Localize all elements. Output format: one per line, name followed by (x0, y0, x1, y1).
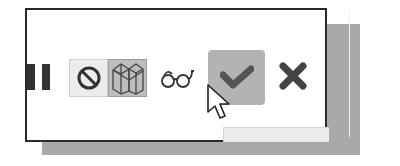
shaded-box-icon (110, 60, 146, 96)
checkmark-icon (220, 65, 254, 91)
hide-button[interactable]: Hide/Show (69, 59, 108, 97)
toolbar-grip-handle[interactable] (27, 64, 51, 90)
prohibit-icon (76, 65, 102, 91)
cancel-button[interactable]: Cancel (272, 55, 314, 97)
ok-button[interactable]: OK (208, 50, 265, 105)
grip-bar (27, 64, 35, 90)
x-icon (278, 61, 308, 91)
command-toolbar-panel: Hide/Show Shaded display (25, 8, 327, 142)
eyeglasses-icon (159, 67, 197, 89)
preview-button[interactable]: Preview (157, 59, 199, 97)
shaded-display-button[interactable]: Shaded display (108, 59, 147, 97)
dialog-stage: Hide/Show Shaded display (0, 0, 400, 166)
grip-bar (42, 64, 50, 90)
divider (349, 10, 350, 137)
bottom-strip (223, 127, 329, 142)
